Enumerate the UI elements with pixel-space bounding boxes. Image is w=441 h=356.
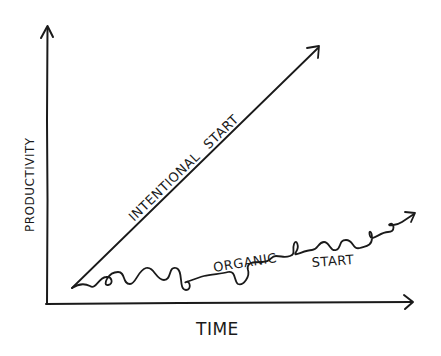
y-axis [41, 26, 53, 304]
intentional-label: INTENTIONAL [126, 149, 203, 224]
organic-start-annotation-2: START [311, 252, 355, 270]
organic-start-word: START [311, 252, 355, 270]
intentional-start-line [72, 46, 319, 288]
organic-start-annotation: ORGANIC [212, 250, 278, 275]
chart-container: PRODUCTIVITY TIME INTENTIONAL START ORGA… [0, 0, 441, 356]
y-axis-label: PRODUCTIVITY [23, 137, 37, 232]
intentional-start-word: START [200, 112, 241, 152]
intentional-start-annotation: INTENTIONAL START [126, 112, 242, 225]
organic-start-line [72, 212, 415, 290]
x-axis [46, 295, 413, 309]
chart-canvas: PRODUCTIVITY TIME INTENTIONAL START ORGA… [0, 0, 441, 356]
organic-label: ORGANIC [212, 250, 278, 275]
x-axis-label: TIME [195, 319, 239, 339]
